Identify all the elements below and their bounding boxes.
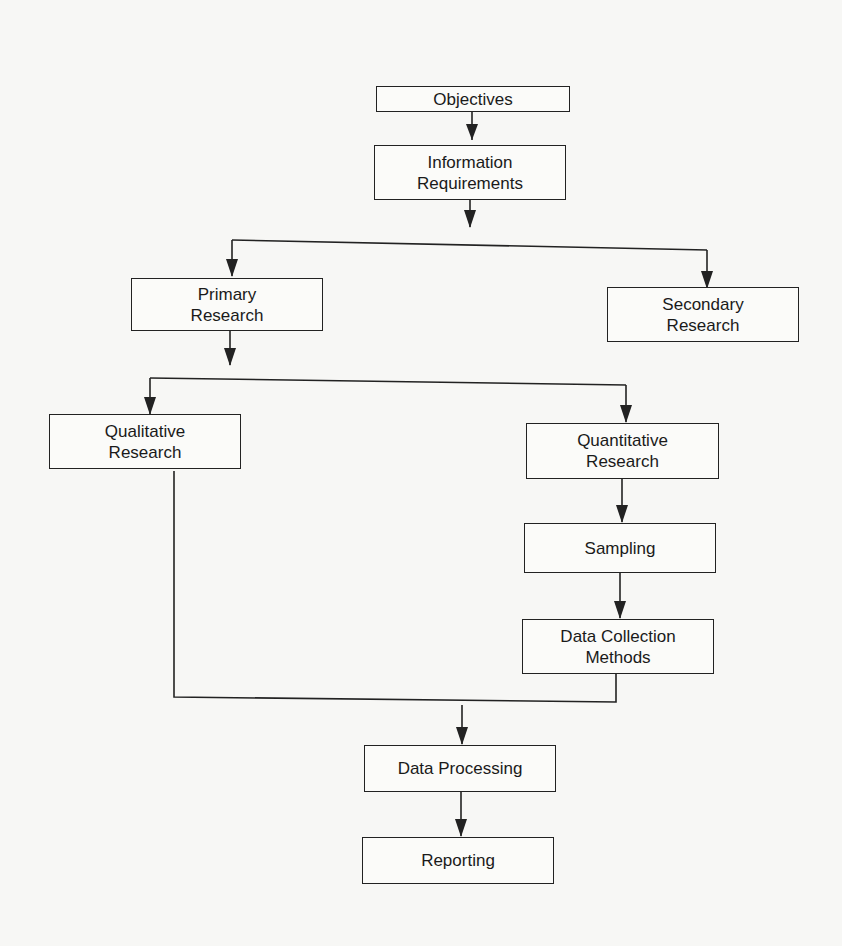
node-label: Objectives: [433, 89, 512, 110]
node-secondary-research: Secondary Research: [607, 287, 799, 342]
node-quantitative-research: Quantitative Research: [526, 423, 719, 479]
node-qualitative-research: Qualitative Research: [49, 414, 241, 469]
node-primary-research: Primary Research: [131, 278, 323, 331]
node-data-processing: Data Processing: [364, 745, 556, 792]
node-label: Sampling: [585, 538, 656, 559]
node-reporting: Reporting: [362, 837, 554, 884]
node-data-collection-methods: Data Collection Methods: [522, 619, 714, 674]
research-process-flowchart: Objectives Information Requirements Prim…: [0, 0, 842, 946]
node-label: Data Collection Methods: [560, 626, 675, 668]
node-label: Data Processing: [398, 758, 523, 779]
node-objectives: Objectives: [376, 86, 570, 112]
node-label: Quantitative Research: [577, 430, 668, 472]
node-label: Primary Research: [191, 284, 264, 326]
node-label: Reporting: [421, 850, 495, 871]
node-label: Information Requirements: [417, 152, 523, 194]
node-label: Secondary Research: [662, 294, 743, 336]
node-sampling: Sampling: [524, 523, 716, 573]
node-label: Qualitative Research: [105, 421, 185, 463]
node-information-requirements: Information Requirements: [374, 145, 566, 200]
